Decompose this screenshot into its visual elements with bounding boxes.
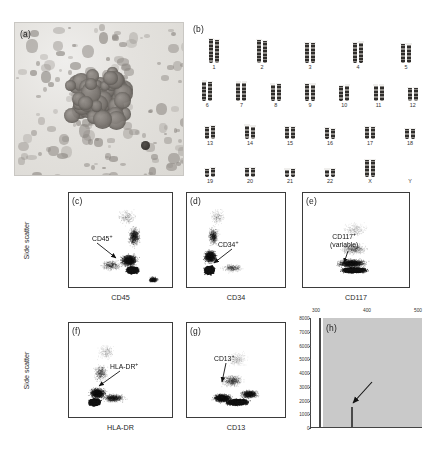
panel-e-annotation-sup: + [353,231,356,237]
figure-root: (a) 12345678910111213141516171819202122X… [0,0,440,460]
panel-c-annotation-sup: + [109,233,112,239]
panel-f-annotation-text: HLA-DR [110,363,135,370]
panel-c-annotation-text: CD45 [92,235,109,242]
panel-f-label: (f) [72,326,81,336]
panel-h-arrow [0,0,440,460]
panel-g-annotation-text: CD13 [214,355,231,362]
panel-g-annotation-sup: + [231,353,234,359]
panel-c-label: (c) [72,196,83,206]
panel-e-annotation-text: CD117 [332,233,353,240]
panel-g-annotation: CD13+ [214,354,234,363]
panel-f-annotation-sup: + [135,361,138,367]
panel-g-label: (g) [190,326,201,336]
panel-d-label: (d) [190,196,201,206]
panel-f-annotation: HLA-DR+ [110,362,138,371]
panel-a-label: (a) [20,29,31,39]
panel-c-annotation: CD45+ [92,234,112,243]
panel-e-annotation-line2: (variable) [330,241,358,248]
panel-e-annotation: CD117+ (variable) [330,232,358,249]
panel-d-annotation-text: CD34 [218,241,235,248]
panel-d-annotation-sup: + [235,239,238,245]
panel-d-annotation: CD34+ [218,240,238,249]
panel-e-label: (e) [306,196,317,206]
panel-b-label: (b) [193,24,204,34]
panel-h-label: (h) [326,323,337,333]
